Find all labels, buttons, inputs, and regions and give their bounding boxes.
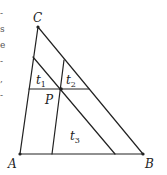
vertex-dot-b [141, 152, 144, 155]
left-edge-text-fragments: - s e - , - [0, 8, 5, 100]
text-fragment: - [0, 8, 3, 18]
text-fragment: - [0, 90, 3, 100]
triangle-diagram: - s e - , - C A B P t1 t2 t3 [0, 0, 167, 175]
text-fragment: - [0, 56, 3, 66]
region-label-t3: t3 [70, 129, 80, 145]
vertex-dot-c [36, 25, 39, 28]
vertex-dot-a [18, 152, 21, 155]
vertex-label-a: A [7, 157, 17, 171]
vertex-label-c: C [33, 11, 42, 25]
vertex-label-b: B [144, 157, 154, 171]
line-parallel-to-ac [52, 60, 64, 154]
point-dot-p [59, 87, 63, 91]
triangle-abc [20, 27, 143, 154]
text-fragment: , [0, 74, 3, 84]
point-label-p: P [44, 93, 54, 107]
region-label-t2: t2 [66, 73, 76, 89]
text-fragment: e [0, 40, 5, 50]
region-label-t1: t1 [36, 73, 46, 89]
text-fragment: s [0, 24, 5, 34]
